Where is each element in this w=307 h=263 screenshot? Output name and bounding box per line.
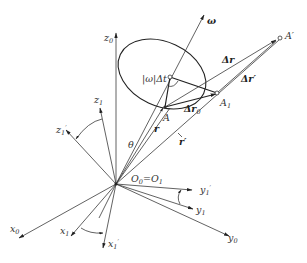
- label-z1: z1: [93, 94, 103, 107]
- label-omega: ω: [207, 15, 216, 26]
- point-A-prime: [278, 36, 282, 40]
- label-A: A: [162, 112, 170, 123]
- label-r-prime: r′: [179, 136, 187, 147]
- label-omega-dt: |ω|Δt: [142, 73, 167, 85]
- label-r: r: [154, 123, 160, 134]
- omega-center-point: [168, 75, 172, 79]
- origin-point: [114, 182, 117, 185]
- z-rotation-arc: [76, 119, 102, 139]
- x-rotation-arc: [81, 228, 103, 233]
- label-z1-prime: z1′: [55, 124, 67, 137]
- label-theta: θ: [128, 139, 134, 150]
- label-z0: z0: [103, 32, 113, 45]
- label-delta-r: Δr: [221, 54, 235, 65]
- kinematics-diagram: z0 z1 z1′ ω |ω|Δt A′ Δr Δr′ A1 Δr0 A r r…: [0, 0, 307, 263]
- label-y1: y1: [195, 204, 206, 217]
- point-A1: [215, 91, 219, 95]
- label-delta-r-prime: Δr′: [240, 73, 256, 84]
- radius-to-A1: [170, 77, 217, 93]
- label-x0: x0: [10, 223, 20, 236]
- x1-axis: [71, 184, 116, 236]
- label-origin: O0=O1: [131, 173, 163, 186]
- label-A-prime: A′: [284, 30, 295, 41]
- label-y0: y0: [227, 232, 238, 245]
- label-x1: x1: [60, 225, 70, 238]
- z1-axis: [100, 108, 116, 184]
- label-A1: A1: [219, 97, 231, 110]
- y0-axis: [116, 184, 229, 236]
- delta-r-prime-vector: [217, 41, 276, 93]
- y-rotation-arc: [178, 190, 181, 204]
- z1-prime-axis: [66, 130, 116, 184]
- label-y1-prime: y1′: [199, 184, 212, 197]
- point-A: [163, 105, 166, 108]
- label-delta-r0: Δr0: [183, 103, 201, 116]
- y1-axis: [116, 184, 193, 209]
- label-x1-prime: x1′: [108, 238, 120, 251]
